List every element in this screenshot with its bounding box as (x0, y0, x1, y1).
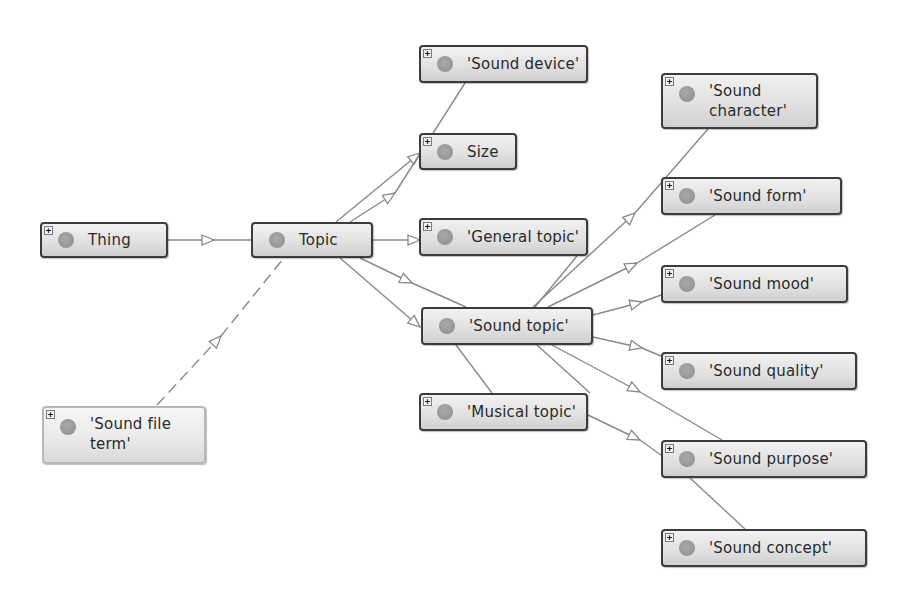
expand-plus-icon[interactable]: + (665, 444, 674, 453)
class-circle-icon (679, 276, 695, 292)
edge-general-topic-sound-topic (535, 256, 577, 307)
expand-plus-icon[interactable]: + (665, 533, 674, 542)
node-label: 'Sound purpose' (709, 449, 833, 469)
node-sound-mood[interactable]: + 'Sound mood' (661, 265, 848, 303)
expand-plus-icon[interactable]: + (665, 356, 674, 365)
class-circle-icon (437, 404, 453, 420)
expand-plus-icon[interactable]: + (423, 137, 432, 146)
class-circle-icon (437, 56, 453, 72)
class-circle-icon (439, 318, 455, 334)
node-label: 'Sound character' (709, 81, 787, 121)
class-circle-icon (269, 232, 285, 248)
node-label: Size (467, 142, 499, 162)
class-circle-icon (437, 144, 453, 160)
class-circle-icon (679, 86, 695, 102)
class-circle-icon (58, 232, 74, 248)
node-label: 'Sound device' (467, 54, 579, 74)
node-label: 'Sound file term' (90, 414, 171, 454)
node-label: 'Sound mood' (709, 274, 814, 294)
edge-sound-file-term-topic (157, 259, 283, 405)
node-label: 'General topic' (467, 227, 579, 247)
node-sound-device[interactable]: + 'Sound device' (419, 45, 588, 83)
node-thing[interactable]: + Thing (40, 222, 168, 258)
node-label: 'Sound concept' (709, 538, 832, 558)
node-label: 'Sound topic' (469, 316, 569, 336)
class-circle-icon (679, 188, 695, 204)
node-sound-character[interactable]: + 'Sound character' (661, 73, 818, 129)
node-label: 'Sound form' (709, 186, 807, 206)
class-circle-icon (679, 363, 695, 379)
class-circle-icon (679, 451, 695, 467)
node-sound-quality[interactable]: + 'Sound quality' (661, 352, 857, 390)
expand-plus-icon[interactable]: + (423, 49, 432, 58)
expand-plus-icon[interactable]: + (44, 226, 53, 235)
expand-plus-icon[interactable]: + (423, 397, 432, 406)
edge-sound-topic-sound-mood (593, 295, 661, 315)
node-sound-concept[interactable]: + 'Sound concept' (661, 529, 867, 567)
node-sound-file-term[interactable]: + 'Sound file term' (42, 406, 206, 464)
node-sound-topic[interactable]: 'Sound topic' (421, 307, 593, 345)
node-topic[interactable]: Topic (251, 222, 373, 258)
node-label: 'Musical topic' (467, 402, 576, 422)
node-size[interactable]: + Size (419, 133, 517, 170)
class-circle-icon (437, 229, 453, 245)
expand-plus-icon[interactable]: + (665, 269, 674, 278)
edge-sound-topic-sound-quality (593, 337, 661, 356)
ontology-graph-canvas[interactable]: + Thing Topic + 'Sound device' + Size + … (0, 0, 915, 591)
class-circle-icon (679, 540, 695, 556)
edge-topic-size (336, 153, 420, 222)
class-circle-icon (60, 419, 76, 435)
node-sound-form[interactable]: + 'Sound form' (661, 177, 842, 215)
node-general-topic[interactable]: + 'General topic' (419, 218, 588, 256)
node-label: 'Sound quality' (709, 361, 824, 381)
node-label: Topic (299, 230, 338, 250)
expand-plus-icon[interactable]: + (423, 222, 432, 231)
node-musical-topic[interactable]: + 'Musical topic' (419, 393, 588, 431)
node-label: Thing (88, 230, 131, 250)
expand-plus-icon[interactable]: + (665, 181, 674, 190)
expand-plus-icon[interactable]: + (46, 410, 55, 419)
expand-plus-icon[interactable]: + (665, 77, 674, 86)
node-sound-purpose[interactable]: + 'Sound purpose' (661, 440, 867, 478)
